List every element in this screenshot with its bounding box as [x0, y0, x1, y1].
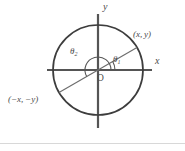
origin-label: O	[97, 74, 104, 84]
y-axis-label: y	[103, 2, 107, 12]
opposite-point-label: (−x, −y)	[8, 95, 38, 104]
bottom-divider	[0, 143, 185, 144]
theta2-subscript: 2	[74, 51, 77, 57]
theta1-label: θ1	[113, 55, 120, 65]
theta1-subscript: 1	[117, 59, 120, 65]
theta2-label: θ2	[70, 47, 77, 57]
terminal-point-label: (x, y)	[133, 30, 151, 39]
unit-circle-diagram	[0, 0, 185, 151]
figure-container: y x O (x, y) (−x, −y) θ1 θ2	[0, 0, 185, 151]
x-axis-label: x	[155, 56, 159, 66]
